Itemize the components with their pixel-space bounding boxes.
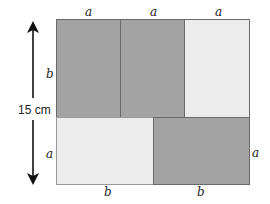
height-label: 15 cm xyxy=(18,104,51,116)
height-arrow-icon xyxy=(0,0,270,204)
